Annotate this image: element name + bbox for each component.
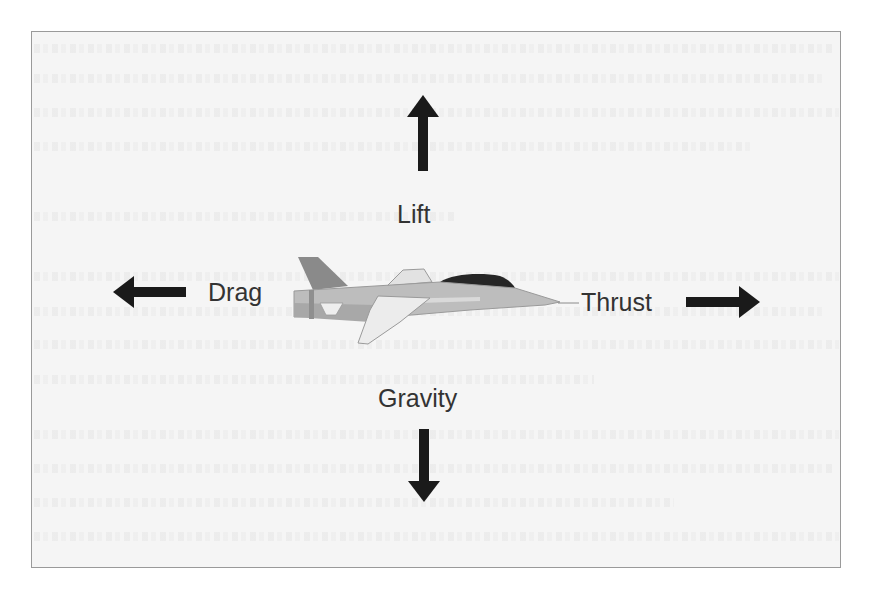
arrow-up-icon (407, 95, 439, 171)
thrust-label: Thrust (581, 290, 652, 315)
gravity-label: Gravity (378, 386, 457, 411)
lift-label: Lift (397, 202, 430, 227)
arrow-down-icon (408, 429, 440, 502)
arrow-left-icon (113, 276, 186, 308)
jet-airplane-illustration (294, 257, 579, 344)
drag-label: Drag (208, 280, 262, 305)
forces-diagram (0, 0, 873, 597)
arrow-right-icon (686, 286, 760, 318)
